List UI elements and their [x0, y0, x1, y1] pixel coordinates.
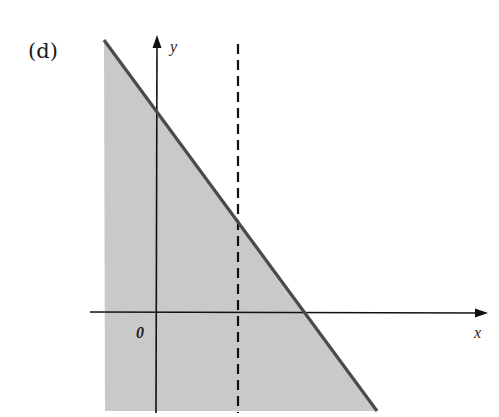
y-axis-label: y [168, 38, 178, 56]
x-axis-arrow-icon [475, 309, 488, 318]
panel-label: (d) [28, 39, 58, 63]
y-axis-arrow-icon [153, 35, 162, 48]
x-axis-label: x [473, 324, 481, 341]
origin-label: 0 [136, 324, 144, 341]
x-axis [90, 312, 480, 313]
inequality-graph: (d) y x 0 [0, 0, 499, 417]
y-axis [156, 44, 157, 413]
